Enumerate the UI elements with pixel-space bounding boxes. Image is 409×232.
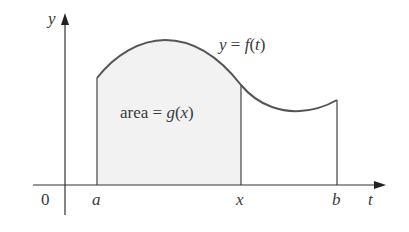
y-axis-arrow-icon [61,13,69,25]
t-axis-arrow-icon [374,181,386,189]
t-axis-label: t [368,190,374,209]
area-label: area = g(x) [120,103,194,122]
tick-label-a: a [92,190,101,209]
origin-label: 0 [41,190,50,209]
y-axis-label: y [46,9,56,28]
area-function-diagram: y t 0 a x b y = f(t) area = g(x) y = f(t… [0,0,409,232]
tick-label-x: x [235,190,244,209]
tick-label-b: b [332,190,341,209]
curve-label: y = f(t) [217,35,265,54]
